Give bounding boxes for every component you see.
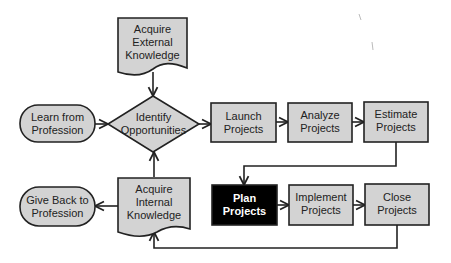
identify-opportunities-label: Identify Opportunities <box>108 106 199 142</box>
learn-from-profession-label: Learn from Profession <box>20 105 95 142</box>
close-projects-label: Close Projects <box>365 183 429 224</box>
plan-projects-label: Plan Projects <box>212 185 277 225</box>
launch-projects-label: Launch Projects <box>211 103 276 142</box>
edge-estimate-to-plan <box>244 142 396 185</box>
implement-projects-label: Implement Projects <box>289 184 353 224</box>
estimate-projects-label: Estimate Projects <box>364 101 428 141</box>
acquire-external-label: Acquire External Knowledge <box>118 18 187 66</box>
analyze-projects-label: Analyze Projects <box>288 102 352 141</box>
acquire-internal-label: Acquire Internal Knowledge <box>118 179 190 225</box>
scan-marks <box>359 14 373 50</box>
give-back-label: Give Back to Profession <box>20 187 95 226</box>
